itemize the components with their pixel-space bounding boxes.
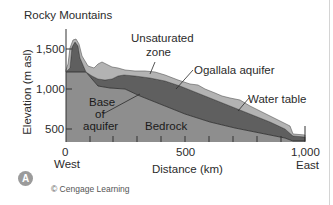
water-table-label: Water table (248, 93, 306, 105)
x-tick-label-1000: 1,000 (291, 146, 320, 158)
x-tick-label-500: 500 (176, 146, 195, 158)
unsaturated-zone-label-2: zone (146, 46, 171, 58)
x-tick-label-0: 0 (62, 146, 68, 158)
y-tick-label-1000: 1,000 (36, 83, 65, 95)
base-of-aquifer-label-3: aquifer (83, 120, 118, 132)
x-east-label: East (296, 159, 319, 171)
ogallala-aquifer-label: Ogallala aquifer (194, 64, 275, 76)
base-of-aquifer-label-1: Base (89, 96, 115, 108)
y-tick-label-500: 500 (45, 123, 64, 135)
x-west-label: West (54, 158, 80, 170)
x-axis-label: Distance (km) (152, 163, 223, 175)
credit-text: © Cengage Learning (51, 184, 130, 194)
base-of-aquifer-label-2: of (95, 108, 105, 120)
rocky-mountains-label: Rocky Mountains (24, 9, 112, 21)
unsaturated-zone-label-1: Unsaturated (131, 32, 194, 44)
y-axis-label: Elevation (m asl) (21, 47, 33, 137)
panel-badge: A (18, 171, 33, 186)
y-tick-label-1500: 1,500 (36, 43, 65, 55)
bedrock-label: Bedrock (145, 120, 187, 132)
